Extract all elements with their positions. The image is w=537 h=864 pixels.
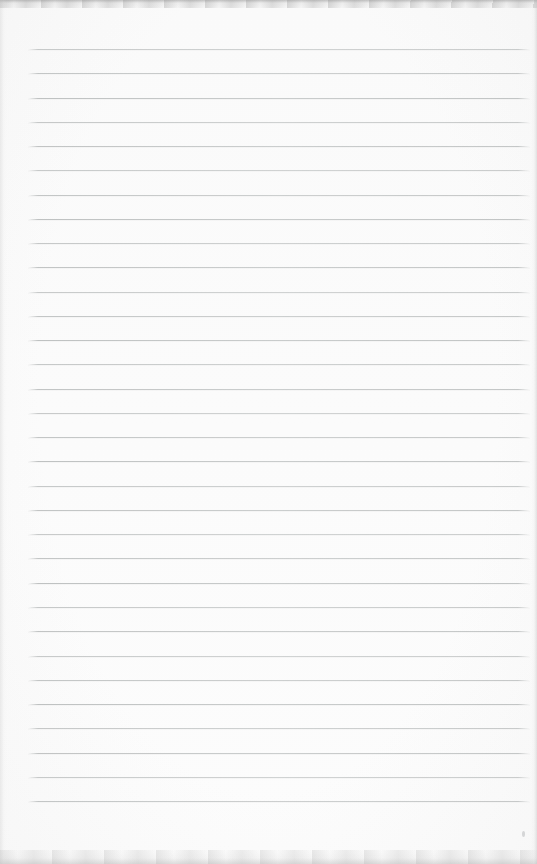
ruled-line — [28, 510, 530, 511]
ruled-line — [28, 656, 530, 657]
ruled-line — [28, 73, 530, 74]
ruled-line — [28, 413, 530, 414]
ruled-line — [28, 219, 530, 220]
ruled-line — [28, 364, 530, 365]
page-left-edge — [0, 0, 7, 864]
ruled-line — [28, 316, 530, 317]
ruled-line — [28, 801, 530, 802]
ruled-line — [28, 534, 530, 535]
paper-speck — [522, 831, 525, 837]
ruled-line — [28, 267, 530, 268]
ruled-line — [28, 753, 530, 754]
ruled-line — [28, 461, 530, 462]
ruled-line — [28, 292, 530, 293]
ruled-line — [28, 728, 530, 729]
ruled-line — [28, 437, 530, 438]
ruled-line — [28, 98, 530, 99]
ruled-line — [28, 486, 530, 487]
ruled-lines — [0, 0, 537, 864]
page-top-edge — [0, 0, 537, 8]
ruled-line — [28, 558, 530, 559]
ruled-line — [28, 340, 530, 341]
ruled-line — [28, 631, 530, 632]
notebook-page — [0, 0, 537, 864]
ruled-line — [28, 146, 530, 147]
ruled-line — [28, 777, 530, 778]
ruled-line — [28, 607, 530, 608]
ruled-line — [28, 389, 530, 390]
ruled-line — [28, 170, 530, 171]
ruled-line — [28, 583, 530, 584]
ruled-line — [28, 243, 530, 244]
ruled-line — [28, 680, 530, 681]
ruled-line — [28, 704, 530, 705]
ruled-line — [28, 195, 530, 196]
ruled-line — [28, 122, 530, 123]
page-right-edge — [531, 0, 537, 864]
ruled-line — [28, 49, 530, 50]
page-bottom-edge — [0, 850, 537, 864]
